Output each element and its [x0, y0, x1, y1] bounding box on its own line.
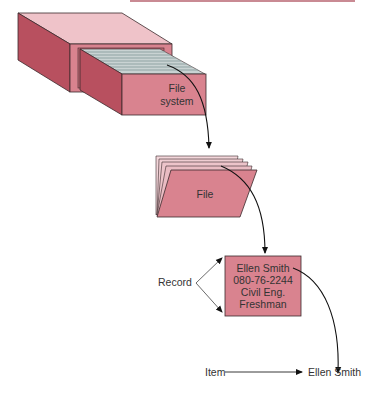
file-drawer-icon: File system: [80, 49, 206, 115]
record-card: Ellen Smith 080-76-2244 Civil Eng. Fresh…: [225, 256, 301, 316]
record-callout-arrow-top: [196, 258, 222, 283]
file-label: File: [197, 188, 214, 200]
item-value: Ellen Smith: [308, 366, 361, 378]
record-callout-label: Record: [158, 276, 192, 288]
record-field-name: Ellen Smith: [236, 262, 289, 274]
record-callout-arrow-bottom: [196, 283, 222, 312]
record-field-major: Civil Eng.: [241, 286, 285, 298]
record-field-id: 080-76-2244: [233, 274, 293, 286]
item-callout-label: Item: [205, 366, 226, 378]
file-system-label-line2: system: [160, 95, 194, 107]
record-field-class: Freshman: [239, 298, 286, 310]
file-hierarchy-diagram: File system File Ellen Smith 080-76-2244…: [0, 0, 369, 393]
file-system-label-line1: File: [169, 82, 186, 94]
file-folder-icon: File: [156, 156, 257, 217]
